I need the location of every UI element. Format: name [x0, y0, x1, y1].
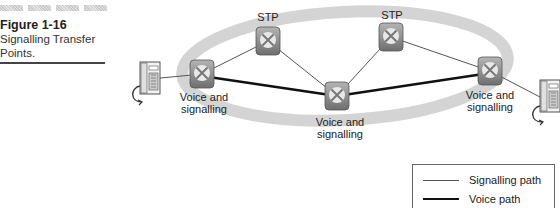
switch-icon-stp-right [379, 23, 403, 51]
signalling-line-swatch [423, 180, 459, 181]
voice-right-label-line1: Voice and [466, 89, 514, 101]
voice-right-label-line2: signalling [467, 101, 513, 113]
switch-icon-voice-left [190, 60, 214, 88]
legend-item-voice: Voice path [423, 193, 520, 205]
legend-item-signalling: Signalling path [423, 174, 541, 186]
stp-left-label: STP [257, 11, 278, 23]
right-telephone-icon [533, 80, 560, 125]
voice-left-label-line1: Voice and [180, 91, 228, 103]
legend-voice-label: Voice path [469, 193, 520, 205]
voice-line-swatch [423, 198, 459, 200]
switch-icon-voice-right [478, 57, 502, 85]
stp-right-label: STP [381, 9, 402, 21]
switch-icon-voice-middle [325, 82, 349, 110]
voice-middle-label-line2: signalling [317, 128, 363, 140]
legend-signalling-label: Signalling path [469, 174, 541, 186]
legend: Signalling path Voice path [412, 164, 555, 208]
voice-middle-label-line1: Voice and [316, 116, 364, 128]
voice-left-label-line2: signalling [181, 103, 227, 115]
left-telephone-icon [133, 62, 160, 105]
switch-icon-stp-left [256, 27, 280, 55]
